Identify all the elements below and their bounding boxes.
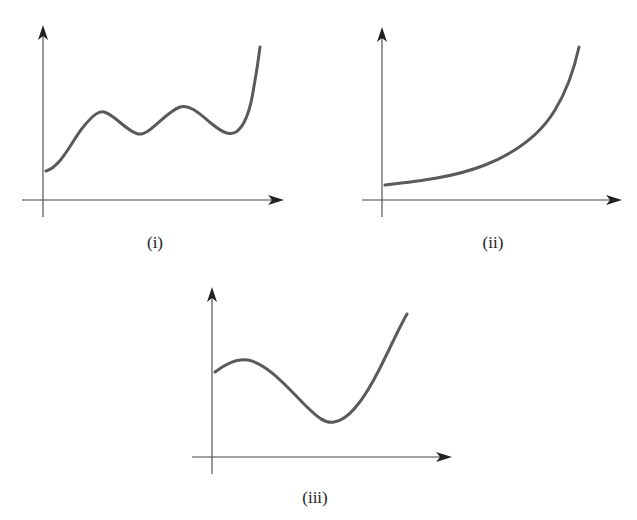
panel-label: (i) — [147, 233, 163, 252]
curve-i — [46, 47, 260, 171]
panel-ii: (ii) — [362, 27, 622, 252]
panel-iii: (iii) — [192, 287, 452, 507]
panel-label: (ii) — [483, 233, 504, 252]
panel-label: (iii) — [302, 488, 328, 507]
curve-iii — [215, 314, 407, 422]
figure-canvas: (i) (ii) (iii) — [0, 0, 637, 520]
curve-ii — [385, 47, 579, 185]
panel-i: (i) — [22, 25, 284, 252]
